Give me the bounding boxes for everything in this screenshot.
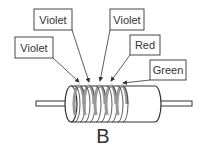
band-labels: VioletVioletVioletRedGreen <box>15 9 186 83</box>
resistor-diagram: VioletVioletVioletRedGreen B <box>0 0 203 156</box>
right-lead <box>158 101 192 106</box>
resistor-body <box>65 86 161 122</box>
svg-text:Green: Green <box>153 64 184 76</box>
pointer-arrow <box>53 58 79 82</box>
pointer-arrow <box>111 55 130 81</box>
pointer-arrow <box>123 80 150 83</box>
svg-text:Violet: Violet <box>20 42 47 54</box>
svg-text:Violet: Violet <box>39 14 66 26</box>
svg-text:Violet: Violet <box>113 14 140 26</box>
label-violet: Violet <box>15 37 79 82</box>
svg-text:Red: Red <box>135 39 155 51</box>
label-green: Green <box>123 60 186 83</box>
pointer-arrow <box>100 30 110 81</box>
pointer-arrow <box>72 30 89 82</box>
caption: B <box>96 125 109 147</box>
